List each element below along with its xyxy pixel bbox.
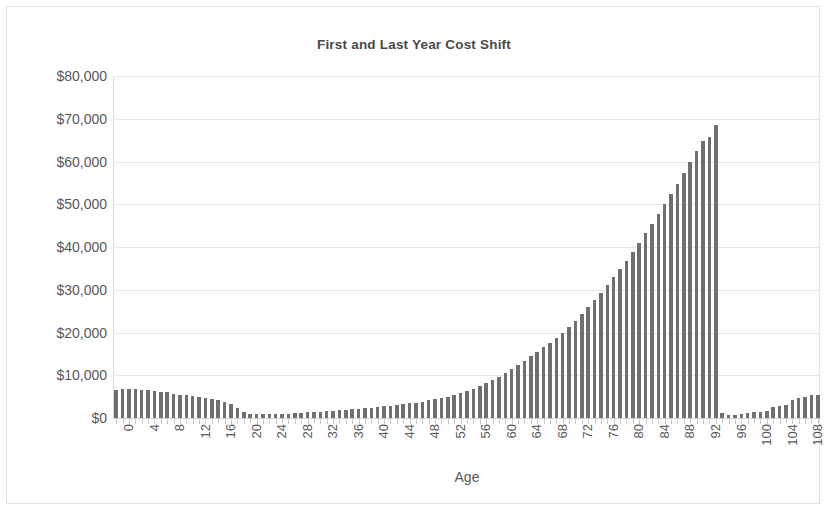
- bar: [338, 410, 342, 418]
- bar: [185, 395, 189, 418]
- bar: [172, 394, 176, 418]
- x-axis-tick-label: 28: [300, 424, 315, 438]
- x-axis-tick-label: 76: [606, 424, 621, 438]
- bar: [216, 400, 220, 418]
- bar: [197, 397, 201, 418]
- bar: [701, 141, 705, 418]
- bar: [816, 395, 820, 419]
- bar: [357, 409, 361, 418]
- bar: [331, 411, 335, 418]
- bar: [535, 352, 539, 418]
- bar: [803, 397, 807, 418]
- bar: [727, 415, 731, 418]
- bar: [644, 233, 648, 418]
- bar: [491, 380, 495, 418]
- x-axis-tick-label: 56: [478, 424, 493, 438]
- bar: [401, 404, 405, 418]
- bar: [325, 411, 329, 418]
- bar: [350, 409, 354, 418]
- y-axis-tick-label: $60,000: [15, 154, 107, 170]
- x-axis-tick-label: 96: [734, 424, 749, 438]
- x-axis-tick-label: 52: [453, 424, 468, 438]
- bar: [714, 125, 718, 418]
- x-axis-title: Age: [113, 469, 821, 485]
- bar: [791, 400, 795, 418]
- bar: [204, 398, 208, 418]
- x-axis-tick-label: 64: [529, 424, 544, 438]
- bar: [720, 413, 724, 418]
- bar: [121, 389, 125, 418]
- bar: [625, 261, 629, 418]
- bar: [268, 414, 272, 418]
- x-axis-tick-label: 72: [580, 424, 595, 438]
- x-axis-tick-label: 32: [325, 424, 340, 438]
- bar: [427, 400, 431, 418]
- bar: [784, 405, 788, 418]
- bar: [165, 392, 169, 418]
- bar: [299, 413, 303, 418]
- chart-title: First and Last Year Cost Shift: [7, 37, 821, 52]
- bar: [586, 307, 590, 418]
- bar: [504, 373, 508, 418]
- bar: [574, 321, 578, 418]
- bar: [497, 377, 501, 418]
- chart-container: First and Last Year Cost Shift $80,000$7…: [6, 6, 820, 504]
- y-axis-tick-label: $30,000: [15, 282, 107, 298]
- bar: [140, 390, 144, 418]
- bar: [688, 162, 692, 418]
- bar: [682, 173, 686, 418]
- bar: [657, 214, 661, 418]
- bar: [746, 413, 750, 418]
- y-axis-tick-label: $70,000: [15, 111, 107, 127]
- bar: [146, 390, 150, 418]
- bar: [287, 414, 291, 418]
- bar: [134, 389, 138, 418]
- bar: [382, 406, 386, 418]
- bar: [663, 204, 667, 418]
- x-axis-tick-label: 100: [759, 424, 774, 446]
- y-axis-tick-label: $40,000: [15, 239, 107, 255]
- bar: [159, 392, 163, 418]
- y-axis-tick-labels: $80,000$70,000$60,000$50,000$40,000$30,0…: [7, 76, 107, 418]
- bar: [191, 396, 195, 418]
- x-axis-tick-label: 36: [351, 424, 366, 438]
- bar: [618, 269, 622, 418]
- bar: [370, 408, 374, 418]
- bar: [637, 243, 641, 418]
- bar: [280, 414, 284, 418]
- x-axis-tick-label: 12: [198, 424, 213, 438]
- bar: [414, 403, 418, 418]
- bar: [389, 406, 393, 418]
- bar: [153, 391, 157, 418]
- bar: [555, 338, 559, 418]
- bar: [465, 391, 469, 418]
- bar: [452, 395, 456, 418]
- bar: [178, 395, 182, 419]
- bar: [242, 412, 246, 418]
- x-axis-tick-label: 88: [682, 424, 697, 438]
- bar: [223, 402, 227, 418]
- bar: [446, 397, 450, 418]
- bar: [765, 411, 769, 418]
- y-axis-tick-label: $20,000: [15, 325, 107, 341]
- x-axis-tick-label: 44: [402, 424, 417, 438]
- bar-series: [113, 76, 821, 418]
- x-axis-tick-label: 104: [785, 424, 800, 446]
- bar: [510, 369, 514, 418]
- bar: [344, 410, 348, 418]
- bar: [408, 403, 412, 418]
- bar: [650, 224, 654, 418]
- bar: [516, 365, 520, 418]
- bar: [676, 184, 680, 418]
- bar: [255, 414, 259, 418]
- y-axis-tick-label: $10,000: [15, 367, 107, 383]
- bar: [797, 398, 801, 418]
- bar: [612, 277, 616, 418]
- bar: [363, 408, 367, 418]
- bar: [593, 300, 597, 418]
- bar: [236, 408, 240, 418]
- bar: [433, 399, 437, 418]
- bar: [759, 412, 763, 418]
- x-axis-tick-label: 108: [810, 424, 825, 446]
- bar: [733, 415, 737, 418]
